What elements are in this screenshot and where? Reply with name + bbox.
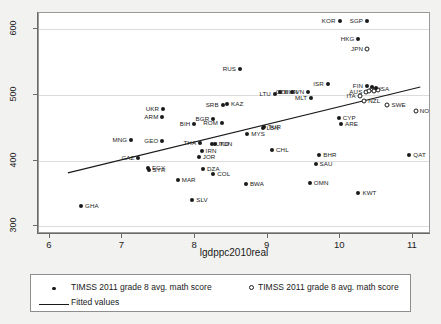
legend-entry-hollow: TIMSS 2011 grade 8 avg. math score — [244, 282, 399, 292]
data-point — [308, 181, 312, 185]
data-point-label: NOR — [420, 108, 430, 114]
y-tick-label: 400 — [8, 152, 18, 167]
y-tick-mark — [33, 160, 37, 161]
data-point-label: UKD — [216, 140, 229, 146]
data-point — [220, 121, 224, 125]
data-point-label: SAU — [320, 161, 333, 167]
data-point — [270, 148, 274, 152]
x-tick-mark — [412, 234, 413, 238]
data-point-label: THA — [183, 140, 196, 146]
data-point-label: LTU — [259, 91, 271, 97]
y-tick-label: 600 — [8, 21, 18, 36]
x-tick-mark — [194, 234, 195, 238]
x-tick-mark — [121, 234, 122, 238]
data-point — [244, 182, 248, 186]
data-point-label: RUS — [223, 66, 236, 72]
data-point-label: QAT — [413, 152, 426, 158]
data-point-label: JOR — [203, 154, 216, 160]
data-point — [309, 96, 313, 100]
legend-label-filled: TIMSS 2011 grade 8 avg. math score — [71, 282, 212, 292]
data-point — [407, 153, 411, 157]
data-point — [197, 155, 201, 159]
data-point — [210, 142, 214, 146]
fitted-line — [39, 13, 429, 232]
plot-area: GHAMNGUKRARMGEOGAZEGYSYRMARSLVBIHJORTHAI… — [38, 12, 430, 233]
data-point — [365, 47, 370, 52]
data-point-label: IRN — [206, 148, 217, 154]
data-point-label: SYR — [153, 167, 166, 173]
data-point-label: TUR — [268, 124, 281, 130]
data-point — [356, 191, 360, 195]
data-point — [147, 168, 151, 172]
data-point — [374, 86, 378, 90]
data-point — [160, 139, 164, 143]
data-point — [136, 156, 140, 160]
data-point-label: KWT — [362, 190, 376, 196]
data-point-label: BHR — [323, 152, 336, 158]
data-point-label: GEO — [144, 138, 158, 144]
data-point — [365, 84, 369, 88]
data-point — [245, 132, 249, 136]
data-point — [129, 138, 133, 142]
data-point-label: GHA — [85, 203, 99, 209]
x-tick-mark — [339, 234, 340, 238]
data-point-label: JPN — [351, 46, 363, 52]
data-point-label: SWE — [391, 102, 405, 108]
data-point-label: CZE — [276, 89, 289, 95]
data-point-label: OMN — [314, 180, 329, 186]
data-point — [262, 125, 266, 129]
data-point — [413, 109, 418, 114]
data-point — [356, 37, 360, 41]
x-tick-mark — [267, 234, 268, 238]
data-point — [365, 19, 369, 23]
data-point — [362, 98, 367, 103]
data-point-label: ISR — [313, 81, 324, 87]
data-point-label: MLT — [295, 94, 307, 100]
data-point — [338, 19, 342, 23]
data-point — [198, 141, 202, 145]
legend-marker-filled-icon — [37, 282, 71, 292]
data-point — [317, 153, 321, 157]
data-point — [200, 149, 204, 153]
x-axis-line — [38, 233, 430, 234]
data-point-label: SRB — [206, 102, 219, 108]
data-point — [385, 103, 390, 108]
y-tick-label: 500 — [8, 86, 18, 101]
data-point — [201, 167, 205, 171]
chart-legend: TIMSS 2011 grade 8 avg. math score TIMSS… — [30, 274, 411, 312]
data-point-label: MNG — [112, 137, 127, 143]
data-point — [225, 102, 229, 106]
legend-marker-hollow-icon — [244, 282, 258, 292]
data-point-label: KOR — [322, 18, 336, 24]
y-tick-mark — [33, 225, 37, 226]
data-point-label: SLV — [196, 197, 208, 203]
data-point — [161, 107, 165, 111]
data-point-label: BIH — [180, 121, 191, 127]
data-point — [339, 122, 343, 126]
data-point — [337, 116, 341, 120]
chart-figure: GHAMNGUKRARMGEOGAZEGYSYRMARSLVBIHJORTHAI… — [0, 0, 441, 324]
data-point-label: GAZ — [121, 155, 134, 161]
data-point — [190, 198, 194, 202]
data-point-label: UKR — [146, 106, 159, 112]
data-point-label: MAR — [182, 176, 196, 182]
y-tick-label: 300 — [8, 218, 18, 233]
y-tick-mark — [33, 94, 37, 95]
data-point — [238, 67, 242, 71]
legend-label-fitted: Fitted values — [71, 297, 119, 307]
legend-marker-line-icon — [37, 297, 71, 307]
data-point-label: ROM — [203, 119, 218, 125]
data-point — [326, 82, 330, 86]
legend-entry-filled: TIMSS 2011 grade 8 avg. math score — [37, 282, 212, 292]
data-point — [314, 162, 318, 166]
y-tick-mark — [33, 28, 37, 29]
data-point-label: ARM — [144, 114, 158, 120]
data-point-label: CHL — [276, 147, 289, 153]
data-point-label: NZL — [368, 98, 380, 104]
x-tick-mark — [49, 234, 50, 238]
data-point-label: BWA — [250, 181, 264, 187]
y-axis-line — [37, 12, 38, 234]
data-point-label: HKG — [341, 35, 355, 41]
data-point-label: SGP — [350, 18, 363, 24]
data-point-label: MYS — [251, 131, 265, 137]
